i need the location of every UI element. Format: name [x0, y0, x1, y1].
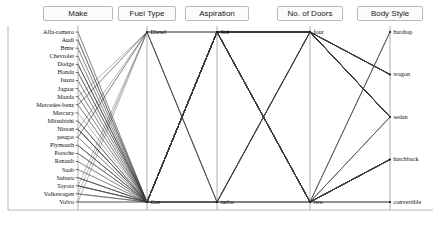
data-line	[78, 32, 390, 202]
axis-node	[146, 31, 148, 33]
data-line	[78, 32, 390, 202]
axis-header-no-of-doors[interactable]: No. of Doors	[277, 6, 343, 21]
category-label: peugot	[57, 134, 74, 140]
category-label: Bmw	[61, 45, 74, 51]
category-label: Std	[221, 29, 229, 35]
data-line	[78, 32, 390, 202]
category-label: Saab	[62, 167, 74, 173]
data-line	[78, 32, 390, 202]
data-line	[78, 32, 390, 202]
data-line	[78, 32, 390, 202]
data-line	[78, 32, 390, 202]
data-line	[78, 32, 390, 202]
data-line	[78, 32, 390, 202]
category-label: two	[314, 199, 323, 205]
category-label: four	[314, 29, 324, 35]
data-line	[78, 32, 390, 202]
category-label: Toyota	[57, 183, 74, 189]
data-line	[78, 32, 390, 202]
axis-node	[146, 201, 148, 203]
data-line	[78, 32, 390, 202]
data-line	[78, 32, 390, 202]
data-line	[78, 32, 390, 202]
data-line	[78, 32, 390, 202]
axis-header-body-style[interactable]: Body Style	[357, 6, 423, 21]
data-line	[78, 32, 390, 202]
data-lines	[78, 32, 390, 202]
data-line	[78, 32, 390, 202]
data-line	[78, 32, 390, 202]
axis-ticks	[76, 31, 392, 203]
data-line	[78, 32, 390, 202]
data-line	[78, 32, 390, 202]
data-line	[78, 32, 390, 202]
category-label: Audi	[62, 37, 74, 43]
data-line	[78, 32, 390, 202]
data-line	[78, 32, 390, 202]
data-line	[78, 32, 390, 202]
data-line	[78, 32, 390, 117]
data-line	[78, 32, 390, 202]
data-line	[78, 32, 390, 202]
data-line	[78, 32, 390, 202]
data-line	[78, 32, 390, 194]
data-line	[78, 32, 390, 202]
category-label: Diesel	[151, 29, 167, 35]
data-line	[78, 32, 390, 202]
axis-node	[389, 73, 391, 75]
category-label: Isuzu	[61, 77, 74, 83]
axis-node	[389, 201, 391, 203]
axis-header-fuel-type[interactable]: Fuel Type	[118, 6, 176, 21]
axis-node	[309, 201, 311, 203]
axis-node	[389, 31, 391, 33]
axis-header-aspiration[interactable]: Aspiration	[185, 6, 249, 21]
category-label: Gas	[151, 199, 161, 205]
data-line	[78, 32, 390, 202]
category-label: Volvo	[59, 199, 74, 205]
data-line	[78, 32, 390, 202]
category-label: Mitsubishi	[48, 118, 74, 124]
data-line	[78, 32, 390, 202]
data-line	[78, 32, 390, 202]
data-line	[78, 32, 390, 202]
category-label: Subaru	[56, 175, 74, 181]
data-line	[78, 32, 390, 202]
data-line	[78, 32, 390, 202]
data-line	[78, 32, 390, 202]
category-label: Mercedes-benz	[36, 102, 74, 108]
axis-node	[216, 201, 218, 203]
category-label: turbo	[221, 199, 234, 205]
axis-node	[389, 158, 391, 160]
data-line	[78, 32, 390, 202]
data-line	[78, 32, 390, 202]
data-line	[78, 32, 390, 202]
category-label: Porsche	[54, 150, 74, 156]
data-line	[78, 32, 390, 202]
category-label: Chevrolet	[50, 53, 74, 59]
data-line	[78, 32, 390, 202]
category-label: Alfa-romero	[43, 29, 74, 35]
axis-node	[309, 31, 311, 33]
axis-node	[216, 31, 218, 33]
category-label: Mazda	[57, 94, 74, 100]
axis-header-make[interactable]: Make	[43, 6, 113, 21]
data-line	[78, 32, 390, 202]
parallel-coordinates-chart: MakeFuel TypeAspirationNo. of DoorsBody …	[0, 0, 441, 225]
data-line	[78, 32, 390, 202]
category-label: Volkswagen	[44, 191, 74, 197]
data-line	[78, 32, 390, 202]
category-label: Nissan	[57, 126, 74, 132]
data-line	[78, 32, 390, 202]
data-line	[78, 32, 390, 202]
data-line	[78, 32, 390, 202]
data-line	[78, 32, 390, 202]
category-label: Plymouth	[50, 142, 74, 148]
data-line	[78, 32, 390, 202]
data-line	[78, 121, 390, 202]
data-line	[78, 32, 390, 202]
data-line	[78, 32, 390, 202]
category-label: Dodge	[58, 61, 75, 67]
axis-lines	[78, 26, 390, 210]
category-label: Jaguar	[58, 86, 74, 92]
axis-node	[389, 116, 391, 118]
